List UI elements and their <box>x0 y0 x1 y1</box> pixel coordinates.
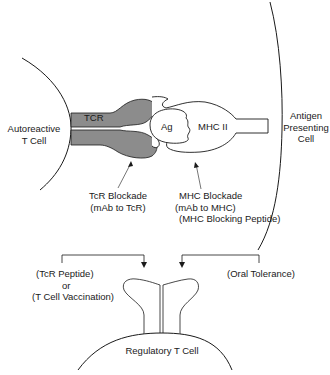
antigen-presenting-cell-label: Antigen Presenting Cell <box>282 110 330 145</box>
regulatory-t-cell-label: Regulatory T Cell <box>112 345 212 357</box>
apc-line3: Cell <box>282 133 330 145</box>
tcr-peptide-arrowhead <box>141 262 147 268</box>
autoreactive-t-cell-line1: Autoreactive <box>2 123 66 135</box>
tcr-blockade-line1: TcR Blockade <box>82 190 154 202</box>
oral-tolerance-connector <box>182 255 259 264</box>
mhc-blockade-arrow <box>196 164 201 189</box>
mhc-blockade-line3: (MHC Blocking Peptide) <box>173 213 280 225</box>
tcr-peptide-label: (TcR Peptide) or (T Cell Vaccination) <box>32 268 122 303</box>
autoreactive-t-cell-label: Autoreactive T Cell <box>2 123 66 146</box>
antigen-label: Ag <box>161 121 173 133</box>
oral-tolerance-label: (Oral Tolerance) <box>227 268 295 280</box>
mhc-blockade-arrowhead <box>194 162 199 168</box>
tcr-peptide-line2: or <box>32 280 122 292</box>
mhc-ii-label: MHC II <box>198 121 228 133</box>
tcr-peptide-line1: (TcR Peptide) <box>32 268 122 280</box>
regulatory-tcr-shape <box>123 279 160 334</box>
tcr-peptide-connector <box>62 255 144 264</box>
autoreactive-t-cell-line2: T Cell <box>2 135 66 147</box>
tcr-peptide-line3: (T Cell Vaccination) <box>32 291 122 303</box>
apc-line1: Antigen <box>282 110 330 122</box>
tcr-blockade-arrowhead <box>128 161 133 167</box>
tcr-label: TCR <box>84 112 104 124</box>
apc-line2: Presenting <box>282 122 330 134</box>
tcr-blockade-label: TcR Blockade (mAb to TcR) <box>82 190 154 213</box>
tcr-blockade-line2: (mAb to TcR) <box>82 202 154 214</box>
tcr-lower-chain-shape <box>71 130 157 158</box>
oral-tolerance-arrowhead <box>179 262 185 268</box>
mhc-blockade-line2: (mAb to MHC) <box>173 202 280 214</box>
mhc-blockade-line1: MHC Blockade <box>173 190 280 202</box>
immunotherapy-diagram <box>0 0 330 375</box>
mhc-blockade-label: MHC Blockade (mAb to MHC) (MHC Blocking … <box>173 190 280 225</box>
regulatory-tcr-shape-right <box>163 279 199 334</box>
